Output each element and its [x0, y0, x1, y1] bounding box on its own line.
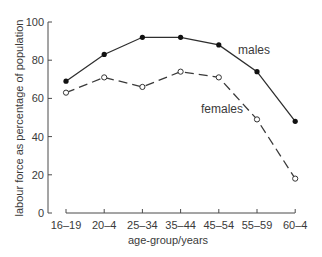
data-point	[178, 69, 183, 74]
x-tick-label: 45–54	[204, 219, 235, 231]
x-tick-label: 20–4	[92, 219, 116, 231]
data-point	[140, 84, 145, 89]
data-point	[216, 75, 221, 80]
x-tick-label: 16–19	[51, 219, 82, 231]
y-tick-label: 40	[32, 131, 44, 143]
y-tick-label: 80	[32, 54, 44, 66]
y-axis-label: labour force as percentage of population	[13, 20, 25, 217]
y-tick-label: 20	[32, 169, 44, 181]
data-point	[293, 176, 298, 181]
data-point	[254, 69, 259, 74]
labour-force-chart: 020406080100 16–1920–425–3435–4445–5455–…	[0, 0, 322, 257]
y-tick-label: 0	[38, 207, 44, 219]
data-point	[140, 35, 145, 40]
data-point	[63, 79, 68, 84]
y-tick-label: 100	[26, 16, 44, 28]
series-females	[63, 69, 297, 181]
females-label: females	[201, 102, 243, 116]
x-tick-label: 35–44	[165, 219, 196, 231]
x-tick-label: 55–59	[242, 219, 273, 231]
data-point	[102, 75, 107, 80]
data-point	[216, 42, 221, 47]
x-tick-label: 60–4	[283, 219, 307, 231]
data-point	[178, 35, 183, 40]
y-tick-label: 60	[32, 92, 44, 104]
data-point	[63, 90, 68, 95]
x-axis: 16–1920–425–3435–4445–5455–5960–4	[51, 209, 308, 231]
x-axis-label: age-group/years	[128, 234, 209, 246]
x-tick-label: 25–34	[127, 219, 158, 231]
data-point	[293, 119, 298, 124]
y-axis: 020406080100	[26, 16, 52, 219]
data-point	[254, 117, 259, 122]
data-point	[102, 52, 107, 57]
males-label: males	[238, 43, 270, 57]
